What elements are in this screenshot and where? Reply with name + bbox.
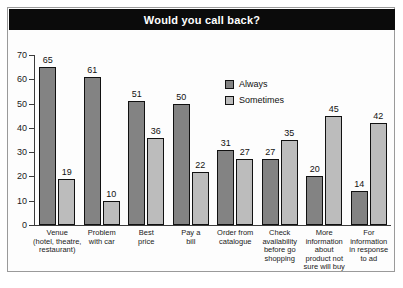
x-axis-category-label: Venue(hotel, theatre,restaurant)	[32, 229, 83, 255]
bar-sometimes-4	[236, 159, 253, 225]
bar-value-label: 10	[99, 189, 124, 199]
x-axis-category-label: Pay abill	[166, 229, 217, 246]
bar-value-label: 50	[169, 92, 194, 102]
bar-value-label: 19	[54, 167, 79, 177]
bar-sometimes-6	[325, 116, 342, 225]
legend: AlwaysSometimes	[225, 79, 305, 111]
bar-always-5	[262, 159, 279, 225]
chart-title-bar: Would you call back?	[9, 9, 395, 30]
bar-always-2	[128, 101, 145, 225]
bar-always-6	[306, 176, 323, 225]
legend-label: Always	[239, 79, 268, 89]
bar-value-label: 42	[366, 111, 391, 121]
bars-layer: 65196110513650223127273520451442	[8, 30, 394, 226]
bar-value-label: 36	[143, 126, 168, 136]
bar-value-label: 22	[188, 160, 213, 170]
legend-swatch-icon	[225, 80, 234, 89]
x-axis-category-label: Problemwith car	[77, 229, 128, 246]
legend-item-always: Always	[225, 79, 305, 89]
bar-always-4	[217, 150, 234, 225]
legend-item-sometimes: Sometimes	[225, 95, 305, 105]
bar-sometimes-3	[192, 172, 209, 225]
plot-area: 010203040506070 651961105136502231272735…	[8, 30, 394, 272]
bar-value-label: 14	[347, 179, 372, 189]
bar-value-label: 51	[124, 89, 149, 99]
bar-value-label: 65	[35, 55, 60, 65]
bar-value-label: 61	[80, 65, 105, 75]
x-axis-category-label: Forinformationin responseto ad	[344, 229, 395, 263]
bar-value-label: 27	[258, 147, 283, 157]
bar-sometimes-5	[281, 140, 298, 225]
x-axis-category-label: Bestprice	[121, 229, 172, 246]
bar-sometimes-1	[103, 201, 120, 225]
bar-value-label: 35	[277, 128, 302, 138]
bar-sometimes-7	[370, 123, 387, 225]
x-axis-category-label: Moreinformationaboutproduct notsure will…	[299, 229, 350, 272]
x-axis-category-label: Order fromcatalogue	[210, 229, 261, 246]
chart-frame: Would you call back? 010203040506070 651…	[7, 7, 395, 272]
x-axis-category-label: Checkavailabilitybefore goshopping	[255, 229, 306, 263]
bar-always-7	[351, 191, 368, 225]
bar-value-label: 27	[232, 147, 257, 157]
page-title: Would you call back?	[144, 14, 260, 26]
legend-label: Sometimes	[239, 95, 284, 105]
bar-value-label: 31	[213, 138, 238, 148]
bar-always-1	[84, 77, 101, 225]
bar-value-label: 45	[321, 104, 346, 114]
legend-swatch-icon	[225, 96, 234, 105]
bar-sometimes-0	[58, 179, 75, 225]
bar-value-label: 20	[302, 164, 327, 174]
bar-always-0	[39, 67, 56, 225]
bar-sometimes-2	[147, 138, 164, 225]
